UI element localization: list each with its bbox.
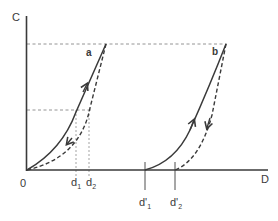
curve-a-unloading — [27, 44, 106, 170]
curve-b-loading — [145, 44, 226, 170]
d1-label: d1 — [71, 177, 81, 188]
d1-label-sub: 1 — [77, 183, 81, 190]
curve-a-loading — [27, 44, 106, 170]
d-prime-2-label: d'2 — [170, 197, 182, 208]
d-prime-1-label: d'1 — [139, 197, 151, 208]
d-prime-2-label-sub: 2 — [178, 203, 182, 210]
diagram-canvas — [0, 0, 278, 221]
d-prime-1-label-sub: 1 — [147, 203, 151, 210]
d-prime-2-label-main: d' — [170, 196, 178, 208]
origin-label: 0 — [20, 178, 26, 189]
d2-label: d2 — [86, 177, 96, 188]
x-axis-label: D — [261, 174, 269, 185]
curve-a-unloading-arrow-icon — [67, 138, 72, 144]
d-prime-1-label-main: d' — [139, 196, 147, 208]
curve-b-label: b — [212, 47, 218, 57]
y-axis-label: C — [12, 12, 20, 23]
curve-b-loading-arrow-icon — [190, 120, 194, 130]
d2-label-sub: 2 — [92, 183, 96, 190]
curve-a-label: a — [86, 48, 92, 58]
